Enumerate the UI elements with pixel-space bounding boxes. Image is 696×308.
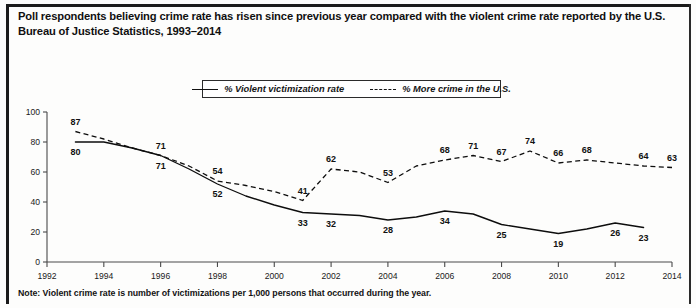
data-point-label: 41	[298, 186, 308, 196]
y-tick-label: 40	[30, 197, 40, 207]
data-point-label: 33	[298, 218, 308, 228]
data-point-label: 25	[497, 230, 507, 240]
x-tick-label: 2004	[378, 271, 397, 281]
data-point-label: 71	[156, 141, 166, 151]
chart-plot-area: 0204060801001992199419961998200020022004…	[0, 0, 696, 308]
data-point-label: 54	[212, 166, 222, 176]
y-tick-label: 60	[30, 167, 40, 177]
data-point-label: 74	[525, 136, 535, 146]
data-point-label: 87	[70, 117, 80, 127]
x-tick-label: 2014	[662, 271, 681, 281]
data-point-label: 80	[70, 147, 80, 157]
data-point-label: 66	[553, 148, 563, 158]
data-point-label: 53	[383, 168, 393, 178]
x-tick-label: 1994	[94, 271, 113, 281]
x-tick-label: 2000	[265, 271, 284, 281]
x-tick-label: 2010	[549, 271, 568, 281]
y-tick-label: 80	[30, 137, 40, 147]
data-point-label: 63	[667, 153, 677, 163]
x-tick-label: 2006	[435, 271, 454, 281]
data-point-label: 71	[468, 141, 478, 151]
y-tick-label: 0	[35, 257, 40, 267]
chart-axes: 0204060801001992199419961998200020022004…	[26, 107, 682, 281]
x-tick-label: 1996	[151, 271, 170, 281]
x-tick-label: 1998	[208, 271, 227, 281]
data-point-label: 71	[156, 161, 166, 171]
data-point-label: 34	[440, 216, 450, 226]
y-tick-label: 20	[30, 227, 40, 237]
data-point-label: 67	[497, 147, 507, 157]
data-point-label: 23	[639, 233, 649, 243]
chart-note: Note: Violent crime rate is number of vi…	[18, 288, 431, 298]
data-point-label: 68	[440, 145, 450, 155]
data-point-label: 28	[383, 225, 393, 235]
x-tick-label: 2008	[492, 271, 511, 281]
data-point-label: 52	[212, 189, 222, 199]
chart-figure: Poll respondents believing crime rate ha…	[0, 0, 696, 308]
data-point-label: 64	[639, 151, 649, 161]
data-point-label: 19	[553, 239, 563, 249]
data-point-label: 62	[326, 154, 336, 164]
x-tick-label: 2002	[322, 271, 341, 281]
y-tick-label: 100	[26, 107, 41, 117]
data-point-label: 68	[582, 145, 592, 155]
x-tick-label: 2012	[606, 271, 625, 281]
x-tick-label: 1992	[37, 271, 56, 281]
data-point-label: 32	[326, 219, 336, 229]
data-point-label: 26	[610, 228, 620, 238]
